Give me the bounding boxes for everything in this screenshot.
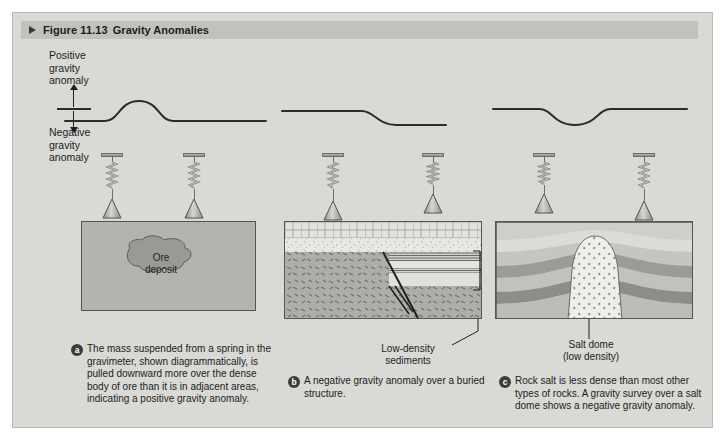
caption-b-text: A negative gravity anomaly over a buried… — [304, 375, 492, 400]
anomaly-curve-a — [61, 91, 273, 133]
anomaly-curve-b — [278, 91, 490, 133]
low-density-sediments-label: Low-density sediments — [366, 343, 450, 367]
caption-badge-b: b — [288, 376, 300, 388]
salt-dome-label: Salt dome (low density) — [547, 339, 635, 363]
caption-c: c Rock salt is less dense than most othe… — [499, 375, 703, 413]
gravimeter-weight-icon — [533, 193, 555, 215]
caption-badge-c: c — [499, 376, 511, 388]
caption-b: b A negative gravity anomaly over a buri… — [288, 375, 492, 400]
figure-title: Gravity Anomalies — [113, 24, 209, 36]
block-buried-structure — [284, 221, 482, 319]
gravimeter-weight-icon — [183, 198, 205, 220]
panel-c: Salt dome (low density) c Rock salt is l… — [489, 43, 701, 423]
ore-deposit-label: Ore deposit — [131, 252, 191, 276]
anomaly-curve-c — [489, 91, 701, 133]
gravimeter-weight-icon — [101, 198, 123, 220]
figure-number: Figure 11.13 — [43, 24, 108, 36]
triangle-right-icon — [29, 26, 36, 34]
panel-a: Ore deposit a The mass suspended from a … — [61, 43, 273, 423]
caption-c-text: Rock salt is less dense than most other … — [515, 375, 703, 413]
figure-container: Figure 11.13 Gravity Anomalies Positive … — [12, 12, 713, 428]
low-density-bracket — [471, 250, 482, 292]
panel-b: Low-density sediments b A negative gravi… — [278, 43, 490, 423]
block-salt-dome — [495, 221, 693, 319]
caption-a: a The mass suspended from a spring in th… — [71, 343, 275, 406]
block-ore-deposit: Ore deposit — [81, 221, 256, 311]
gravimeter-weight-icon — [322, 200, 344, 222]
figure-header: Figure 11.13 Gravity Anomalies — [21, 21, 698, 39]
caption-badge-a: a — [71, 344, 83, 356]
gravimeter-weight-icon — [422, 193, 444, 215]
gravimeter-weight-icon — [633, 200, 655, 222]
caption-a-text: The mass suspended from a spring in the … — [87, 343, 275, 406]
salt-dome-leader-line — [587, 319, 591, 339]
